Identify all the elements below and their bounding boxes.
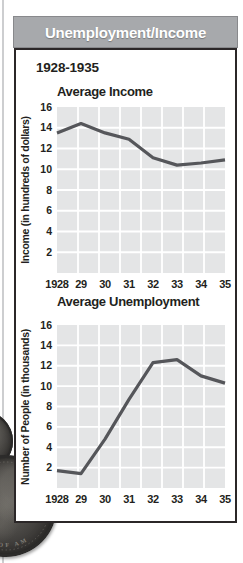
y-tick-label: 4 bbox=[46, 442, 52, 453]
unemployment-y-axis-label-gutter: Number of People (in thousands) bbox=[16, 325, 34, 488]
income-chart: Average Income Income (in hundreds of do… bbox=[16, 84, 235, 292]
x-tick-label: 33 bbox=[171, 277, 183, 291]
period-heading: 1928-1935 bbox=[36, 60, 99, 75]
x-tick-label: 30 bbox=[99, 492, 111, 506]
x-tick-label: 33 bbox=[171, 492, 183, 506]
y-tick-label: 8 bbox=[46, 401, 52, 412]
y-tick-label: 6 bbox=[46, 421, 52, 432]
y-tick-label: 14 bbox=[40, 340, 52, 351]
x-tick-label: 34 bbox=[195, 492, 207, 506]
y-tick-label: 12 bbox=[40, 143, 52, 154]
unemployment-chart-row: Number of People (in thousands) 16141210… bbox=[16, 325, 235, 488]
unemployment-chart: Average Unemployment Number of People (i… bbox=[16, 294, 235, 507]
svg-text:STATES OF AM: STATES OF AM bbox=[0, 519, 29, 548]
y-tick-label: 10 bbox=[40, 164, 52, 175]
income-y-axis-label-gutter: Income (in hundreds of dollars) bbox=[16, 107, 34, 273]
y-tick-label: 16 bbox=[40, 102, 52, 113]
y-tick-label: 2 bbox=[46, 247, 52, 258]
x-tick-label: 30 bbox=[99, 277, 111, 291]
x-tick-label: 1928 bbox=[45, 492, 68, 506]
x-tick-label: 1928 bbox=[45, 277, 68, 291]
page: { "header": { "title": "Unemployment/Inc… bbox=[0, 0, 243, 563]
section-header: Unemployment/Income bbox=[13, 16, 238, 48]
x-tick-label: 34 bbox=[195, 277, 207, 291]
y-tick-label: 12 bbox=[40, 360, 52, 371]
income-y-tick-column: 161412108642 bbox=[34, 107, 57, 273]
income-plot bbox=[57, 107, 225, 273]
income-chart-row: Income (in hundreds of dollars) 16141210… bbox=[16, 107, 235, 273]
y-tick-label: 6 bbox=[46, 205, 52, 216]
coin-rim-text: STATES OF AM bbox=[0, 519, 29, 548]
y-tick-label: 8 bbox=[46, 185, 52, 196]
unemployment-chart-title: Average Unemployment bbox=[57, 294, 235, 309]
unemployment-y-axis-label: Number of People (in thousands) bbox=[19, 329, 31, 485]
income-y-axis-label: Income (in hundreds of dollars) bbox=[19, 116, 31, 264]
income-chart-title: Average Income bbox=[57, 84, 235, 99]
y-tick-label: 16 bbox=[40, 320, 52, 331]
y-tick-label: 2 bbox=[46, 462, 52, 473]
unemployment-x-axis-labels: 192829303132333435 bbox=[57, 492, 225, 507]
x-tick-label: 31 bbox=[123, 277, 135, 291]
unemployment-plot bbox=[57, 325, 225, 488]
income-x-axis-labels: 192829303132333435 bbox=[57, 277, 225, 292]
x-tick-label: 32 bbox=[147, 492, 159, 506]
y-tick-label: 4 bbox=[46, 226, 52, 237]
chart-panel: 1928-1935 Average Income Income (in hund… bbox=[14, 48, 237, 523]
unemployment-y-tick-column: 161412108642 bbox=[34, 325, 57, 488]
y-tick-label: 10 bbox=[40, 381, 52, 392]
x-tick-label: 29 bbox=[75, 277, 87, 291]
x-tick-label: 31 bbox=[123, 492, 135, 506]
x-tick-label: 32 bbox=[147, 277, 159, 291]
x-tick-label: 35 bbox=[219, 277, 231, 291]
x-tick-label: 29 bbox=[75, 492, 87, 506]
y-tick-label: 14 bbox=[40, 122, 52, 133]
x-tick-label: 35 bbox=[219, 492, 231, 506]
section-header-title: Unemployment/Income bbox=[45, 24, 206, 41]
